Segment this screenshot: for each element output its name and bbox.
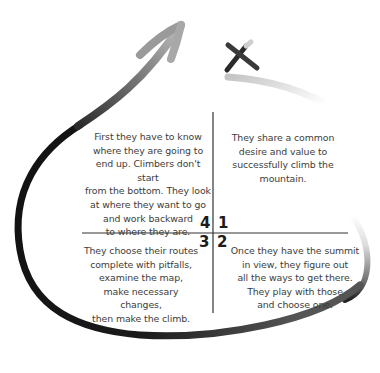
text-line: They choose their routes (82, 244, 200, 258)
text-line: examine the map, (82, 271, 200, 285)
text-line: complete with pitfalls, (82, 258, 200, 272)
arrow-shaft (78, 26, 180, 126)
text-line: They play with those (230, 285, 360, 299)
text-line: and choose one. (230, 298, 360, 312)
text-line: from the bottom. They look (84, 184, 212, 198)
text-line: where they are going to (84, 144, 212, 158)
text-line: and work backward (84, 212, 212, 226)
text-line: in view, they figure out (230, 258, 360, 272)
text-line: mountain. (222, 172, 344, 186)
quadrant-1-number: 1 (218, 216, 228, 231)
quadrant-3-text: They choose their routes complete with p… (82, 244, 200, 326)
quadrant-1-text: They share a common desire and value to … (222, 131, 344, 185)
text-line: end up. Climbers don't start (84, 157, 212, 184)
x-mark-icon (227, 42, 257, 70)
text-line: desire and value to (222, 145, 344, 159)
text-line: Once they have the summit (230, 244, 360, 258)
quadrant-4-number: 4 (200, 216, 210, 231)
text-line: at where they want to go (84, 198, 212, 212)
text-line: First they have to know (84, 130, 212, 144)
text-line: to where they are. (84, 225, 212, 239)
loop-start-stroke (228, 77, 340, 112)
text-line: then make the climb. (82, 312, 200, 326)
quadrant-2-text: Once they have the summit in view, they … (230, 244, 360, 312)
text-line: They share a common (222, 131, 344, 145)
text-line: successfully climb the (222, 158, 344, 172)
quadrant-2-number: 2 (217, 235, 227, 250)
text-line: all the ways to get there. (230, 271, 360, 285)
text-line: make necessary changes, (82, 285, 200, 312)
quadrant-3-number: 3 (199, 235, 209, 250)
quadrant-4-text: First they have to know where they are g… (84, 130, 212, 239)
